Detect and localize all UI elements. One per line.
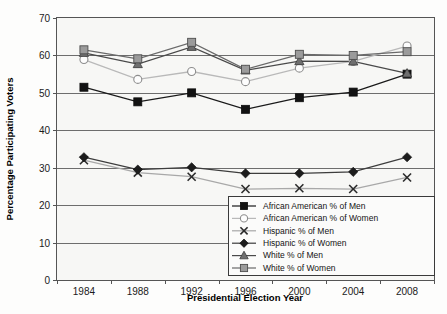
chart-container: 010203040506070 198419881992199620002004…	[0, 0, 447, 314]
legend-item-label: White % of Women	[263, 263, 336, 273]
data-point-marker	[295, 94, 303, 102]
y-tick-label: 60	[39, 50, 51, 61]
line-chart: 010203040506070 198419881992199620002004…	[0, 0, 447, 314]
data-point-marker	[134, 55, 142, 63]
data-point-marker	[134, 98, 142, 106]
y-tick-label: 40	[39, 125, 51, 136]
data-point-marker	[240, 215, 247, 222]
data-point-marker	[240, 264, 247, 271]
data-point-marker	[349, 88, 357, 96]
y-tick-label: 50	[39, 88, 51, 99]
x-tick-label: 1988	[127, 286, 150, 297]
data-point-marker	[242, 78, 250, 86]
legend-item-2[interactable]: Hispanic % of Men	[232, 226, 334, 236]
data-point-marker	[242, 105, 250, 113]
x-tick-label: 2008	[396, 286, 419, 297]
y-tick-label: 0	[44, 275, 50, 286]
x-axis-title: Presidential Election Year	[187, 292, 303, 303]
x-tick-label: 2004	[342, 286, 365, 297]
y-tick-label: 70	[39, 13, 51, 24]
data-point-marker	[80, 46, 88, 54]
data-point-marker	[242, 65, 250, 73]
data-point-marker	[80, 83, 88, 91]
legend-item-label: African American % of Men	[263, 201, 366, 211]
y-axis-title: Percentage Participating Voters	[4, 78, 15, 221]
data-point-marker	[295, 64, 303, 72]
y-axis-ticks: 010203040506070	[39, 13, 57, 286]
legend-item-label: Hispanic % of Men	[263, 226, 334, 236]
data-point-marker	[188, 68, 196, 76]
data-point-marker	[188, 89, 196, 97]
x-tick-label: 1984	[73, 286, 96, 297]
legend-item-5[interactable]: White % of Women	[232, 263, 336, 273]
data-point-marker	[134, 75, 142, 83]
data-point-marker	[349, 51, 357, 59]
data-point-marker	[240, 202, 247, 209]
y-tick-label: 10	[39, 238, 51, 249]
legend-item-label: African American % of Women	[263, 213, 378, 223]
y-tick-label: 30	[39, 163, 51, 174]
y-tick-label: 20	[39, 200, 51, 211]
data-point-marker	[403, 48, 411, 56]
chart-legend: African American % of MenAfrican America…	[229, 197, 435, 276]
legend-item-label: White % of Men	[263, 250, 323, 260]
data-point-marker	[188, 38, 196, 46]
legend-item-label: Hispanic % of Women	[263, 238, 347, 248]
data-point-marker	[295, 50, 303, 58]
